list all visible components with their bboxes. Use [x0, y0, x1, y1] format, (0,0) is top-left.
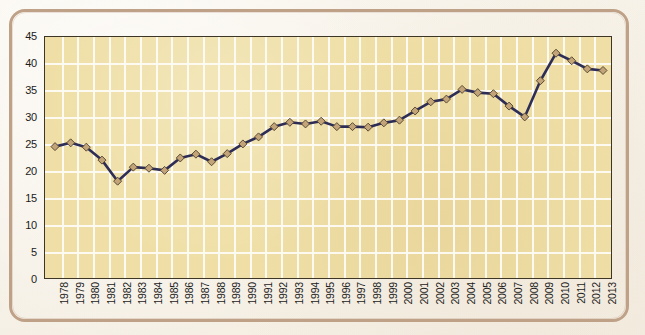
data-point-marker: 2005: 34.7 — [474, 89, 482, 97]
x-axis-tick-label: 2013 — [606, 282, 618, 305]
x-axis-tick-label: 1986 — [183, 282, 195, 305]
x-axis-tick-label: 1993 — [293, 282, 305, 305]
y-axis-tick-label: 40 — [25, 57, 37, 69]
y-axis-tick-label: 5 — [31, 246, 37, 258]
data-point-marker: 1978: 24.7 — [51, 143, 59, 151]
x-axis-tick-label: 1980 — [89, 282, 101, 305]
x-axis-tick-label: 2001 — [418, 282, 430, 305]
x-axis-tick-label: 2010 — [559, 282, 571, 305]
data-point-marker: 1993: 29.2 — [286, 118, 294, 126]
x-axis-tick-label: 1994 — [309, 282, 321, 305]
x-axis-tick-label: 2009 — [543, 282, 555, 305]
x-axis-tick-label: 1992 — [277, 282, 289, 305]
x-axis-tick-label: 1991 — [262, 282, 274, 305]
data-point-marker: 2013: 38.8 — [599, 66, 607, 74]
x-axis-tick-label: 2011 — [575, 282, 587, 304]
x-axis-tick-label: 1987 — [199, 282, 211, 305]
y-axis-tick-label: 20 — [25, 165, 37, 177]
x-axis-tick-label: 1995 — [324, 282, 336, 305]
data-point-marker: 1997: 28.4 — [348, 123, 356, 131]
y-axis-tick-label: 45 — [25, 30, 37, 42]
x-axis-tick-label: 1989 — [230, 282, 242, 305]
x-axis-tick-label: 1982 — [121, 282, 133, 305]
y-axis-tick-label: 25 — [25, 138, 37, 150]
y-axis-tick-label: 0 — [31, 273, 37, 285]
x-axis-tick-labels: 1978197919801981198219831984198519861987… — [44, 282, 612, 334]
data-point-marker: 1996: 28.4 — [333, 123, 341, 131]
data-point-marker: 1979: 25.4 — [67, 139, 75, 147]
x-axis-tick-label: 2006 — [496, 282, 508, 305]
x-axis-tick-label: 1978 — [58, 282, 70, 305]
y-axis-tick-labels: 051015202530354045 — [0, 0, 44, 335]
plot-area: 1978: 24.71979: 25.41980: 24.61981: 22.2… — [44, 36, 612, 279]
y-axis-tick-label: 10 — [25, 219, 37, 231]
x-axis-tick-label: 2003 — [449, 282, 461, 305]
y-axis-tick-label: 30 — [25, 111, 37, 123]
x-axis-tick-label: 2004 — [465, 282, 477, 305]
x-axis-tick-label: 1999 — [387, 282, 399, 305]
data-point-marker: 1987: 23.3 — [192, 150, 200, 158]
x-axis-tick-label: 1998 — [371, 282, 383, 305]
x-axis-tick-label: 2000 — [402, 282, 414, 305]
y-axis-tick-label: 15 — [25, 192, 37, 204]
x-axis-tick-label: 1981 — [105, 282, 117, 305]
x-axis-tick-label: 1985 — [168, 282, 180, 305]
x-axis-tick-label: 2008 — [528, 282, 540, 305]
x-axis-tick-label: 1983 — [136, 282, 148, 305]
x-axis-tick-label: 2005 — [481, 282, 493, 305]
x-axis-tick-label: 1979 — [74, 282, 86, 305]
y-axis-tick-label: 35 — [25, 84, 37, 96]
x-axis-tick-label: 2012 — [590, 282, 602, 305]
data-point-marker: 1999: 29.1 — [380, 119, 388, 127]
x-axis-tick-label: 1996 — [340, 282, 352, 305]
data-point-marker: 1995: 29.4 — [317, 117, 325, 125]
data-point-marker: 1984: 20.7 — [145, 164, 153, 172]
data-series-svg: 1978: 24.71979: 25.41980: 24.61981: 22.2… — [45, 37, 612, 279]
x-axis-tick-label: 1988 — [215, 282, 227, 305]
x-axis-tick-label: 2002 — [434, 282, 446, 305]
x-axis-tick-label: 1990 — [246, 282, 258, 305]
data-point-marker: 1994: 28.9 — [302, 120, 310, 128]
line-chart: 051015202530354045 1978: 24.71979: 25.41… — [0, 0, 645, 335]
x-axis-tick-label: 1984 — [152, 282, 164, 305]
x-axis-tick-label: 2007 — [512, 282, 524, 305]
data-point-marker: 1998: 28.3 — [364, 123, 372, 131]
x-axis-tick-label: 1997 — [355, 282, 367, 305]
